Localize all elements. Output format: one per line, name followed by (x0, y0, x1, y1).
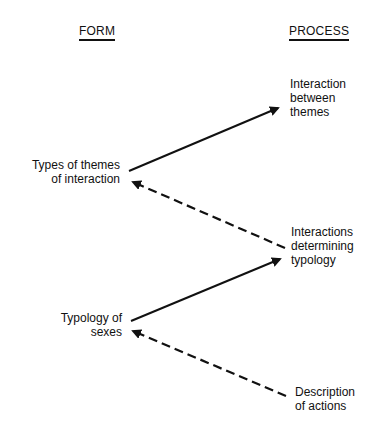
edges-layer (0, 0, 387, 439)
edge-solid-typology-to-interactions (131, 259, 280, 321)
edge-solid-types-to-interaction (129, 108, 278, 171)
edge-dashed-interactions-to-types (133, 182, 285, 248)
edge-dashed-description-to-typology (133, 331, 286, 396)
